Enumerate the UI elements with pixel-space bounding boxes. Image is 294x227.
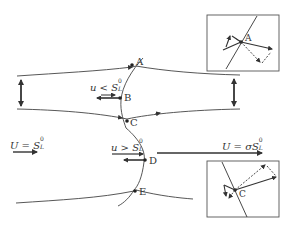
label-D: D — [149, 156, 157, 166]
velocity-arrows-B — [97, 95, 119, 98]
label-u-greater-SL0: u > S0L — [111, 141, 145, 153]
label-u-less-SL0: u < S0L — [90, 81, 124, 93]
inset-label-C: C — [239, 190, 246, 199]
streamline-middle — [17, 109, 240, 119]
label-U-inlet: U = S0L — [10, 139, 46, 151]
inset-label-A: A — [245, 34, 252, 43]
label-U-outlet: U = σS0L — [222, 140, 265, 152]
velocity-arrows-D — [112, 154, 144, 160]
label-B: B — [124, 93, 131, 103]
point-C — [125, 119, 129, 123]
streamline-bottom — [16, 190, 193, 203]
inset-A — [207, 15, 279, 71]
label-A: A — [136, 57, 143, 67]
point-A — [130, 63, 134, 67]
point-E — [133, 189, 137, 193]
label-E: E — [139, 187, 146, 197]
label-C: C — [130, 118, 138, 128]
